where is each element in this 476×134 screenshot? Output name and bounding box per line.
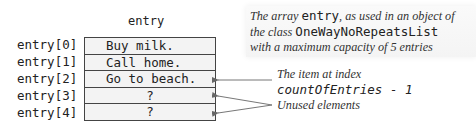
arrow-icon [218, 105, 272, 113]
arrow-icon [218, 96, 272, 105]
